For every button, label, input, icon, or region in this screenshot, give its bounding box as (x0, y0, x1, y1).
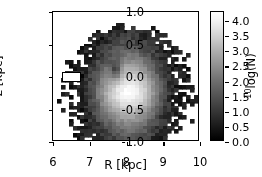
x-axis-title: R [kpc] (52, 158, 199, 172)
colorbar-tick (225, 97, 229, 98)
colorbar-title-prefix: 10 (244, 88, 253, 98)
colorbar-tick (225, 36, 229, 37)
colorbar-tick-label: 3.5 (232, 30, 250, 43)
colorbar-tick-label: 0.5 (232, 120, 250, 133)
y-axis-title: z [kpc] (0, 56, 5, 97)
solar-neighborhood-box (62, 72, 80, 81)
y-tick (49, 12, 53, 13)
y-tick-label: 0.5 (126, 38, 144, 52)
colorbar-tick (225, 66, 229, 67)
colorbar-tick-label: 1.0 (232, 105, 250, 118)
figure-panel: 1.00.50.0-0.5-1.0678910 z [kpc] R [kpc] … (0, 0, 262, 177)
colorbar-tick (225, 112, 229, 113)
colorbar-tick (225, 142, 229, 143)
y-tick-label: 1.0 (126, 5, 144, 19)
y-tick-label: -1.0 (122, 135, 144, 149)
y-tick-label: -0.5 (122, 103, 144, 117)
x-tick (127, 142, 128, 146)
colorbar-tick-label: 4.0 (232, 15, 250, 28)
y-tick (49, 45, 53, 46)
colorbar-tick (225, 51, 229, 52)
x-tick (200, 142, 201, 146)
heatmap-axes: 1.00.50.0-0.5-1.0678910 (52, 11, 199, 141)
colorbar: 0.00.51.01.52.02.53.03.54.0 (210, 11, 224, 141)
y-tick (49, 77, 53, 78)
colorbar-tick (225, 82, 229, 83)
y-tick (49, 110, 53, 111)
colorbar-title-text: log(N) (244, 53, 258, 88)
colorbar-tick (225, 21, 229, 22)
colorbar-tick-label: 0.0 (232, 136, 250, 149)
y-tick-label: 0.0 (126, 70, 144, 84)
colorbar-tick (225, 127, 229, 128)
x-tick (90, 142, 91, 146)
x-tick (53, 142, 54, 146)
colorbar-title: 10log(N) (244, 53, 259, 98)
x-tick (163, 142, 164, 146)
